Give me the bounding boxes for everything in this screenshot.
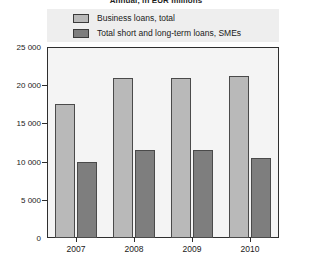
y-axis-tick-mark — [42, 200, 47, 201]
legend-item-sme-loans: Total short and long-term loans, SMEs — [73, 26, 241, 40]
chart-subtitle: Annual, in EUR millions — [0, 0, 312, 5]
x-axis-tick-label: 2009 — [169, 244, 215, 254]
bar-2007-series-0 — [55, 104, 75, 238]
bar-2009-series-1 — [193, 150, 213, 238]
x-axis-tick-mark — [250, 238, 251, 242]
y-axis-tick-label: 0 — [0, 234, 41, 243]
bar-2008-series-1 — [135, 150, 155, 238]
bar-2010-series-0 — [229, 76, 249, 238]
x-axis-tick-label: 2008 — [111, 244, 157, 254]
x-axis-tick-label: 2007 — [53, 244, 99, 254]
y-axis-tick-label: 20 000 — [0, 81, 41, 90]
y-axis-tick-label: 25 000 — [0, 43, 41, 52]
y-axis-tick-label: 10 000 — [0, 157, 41, 166]
bar-2009-series-0 — [171, 78, 191, 238]
y-axis-tick-mark — [42, 123, 47, 124]
legend-item-business-loans-total: Business loans, total — [73, 11, 175, 25]
bar-2010-series-1 — [251, 158, 271, 238]
legend-label: Business loans, total — [97, 14, 175, 23]
chart-figure: Annual, in EUR millions Business loans, … — [0, 0, 312, 268]
legend-swatch-icon — [73, 14, 89, 23]
bar-2008-series-0 — [113, 78, 133, 238]
y-axis-tick-label: 5 000 — [0, 195, 41, 204]
x-axis-tick-label: 2010 — [227, 244, 273, 254]
x-axis-tick-mark — [134, 238, 135, 242]
y-axis-tick-mark — [42, 162, 47, 163]
legend-swatch-icon — [73, 29, 89, 38]
y-axis-tick-label: 15 000 — [0, 119, 41, 128]
x-axis-tick-mark — [192, 238, 193, 242]
chart-legend: Business loans, total Total short and lo… — [47, 9, 279, 42]
x-axis-tick-mark — [76, 238, 77, 242]
bar-2007-series-1 — [77, 162, 97, 238]
y-axis-tick-mark — [42, 85, 47, 86]
legend-label: Total short and long-term loans, SMEs — [97, 29, 241, 38]
